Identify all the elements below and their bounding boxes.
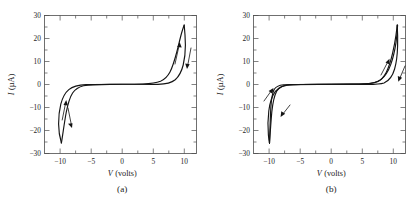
plot-b-ytick-30: 30 xyxy=(243,11,251,20)
plot-a-xtick-5: 5 xyxy=(151,157,155,166)
plot-b-panel-caption: (b) xyxy=(326,184,337,194)
plot-b-ytick-0: 0 xyxy=(246,80,250,89)
plot-a-ytick-30: 30 xyxy=(34,11,42,20)
plot-a-svg: 30 20 10 0 −10 −20 −30 −10 −5 0 5 10 xyxy=(0,0,209,201)
plot-b-y-axis-unit: (µA) xyxy=(216,74,225,90)
plot-b-xtick-5: 5 xyxy=(360,157,364,166)
plot-a-ytick-neg20: −20 xyxy=(29,126,41,135)
plot-b-x-axis-unit: (volts) xyxy=(324,169,346,178)
chart-panel-b: 30 20 10 0 −10 −20 −30 −10 −5 0 5 10 xyxy=(209,0,418,201)
plot-b-xtick-neg5: −5 xyxy=(296,157,304,166)
plot-b-ytick-10: 10 xyxy=(243,57,251,66)
arrow-lower-right-branch-b xyxy=(281,105,290,117)
plot-a-panel-caption: (a) xyxy=(117,184,127,194)
plot-b-x-axis-symbol: V xyxy=(317,169,323,178)
arrow-lower-right-branch-a xyxy=(68,108,73,128)
plot-b-ytick-neg30: −30 xyxy=(238,149,250,158)
plot-a-x-axis-symbol: V xyxy=(108,169,114,178)
plot-a-ytick-neg10: −10 xyxy=(29,103,41,112)
plot-b-xtick-10: 10 xyxy=(390,157,398,166)
chart-panel-a: 30 20 10 0 −10 −20 −30 −10 −5 0 5 10 xyxy=(0,0,209,201)
plot-a-xtick-neg10: −10 xyxy=(54,157,66,166)
plot-b-y-axis-title: I(µA) xyxy=(216,74,225,97)
plot-b-y-axis-symbol: I xyxy=(216,91,225,96)
plot-a-ytick-20: 20 xyxy=(34,34,42,43)
plot-a-ytick-neg30: −30 xyxy=(29,149,41,158)
plot-a-y-axis-unit: (µA) xyxy=(7,74,16,90)
plot-b-svg: 30 20 10 0 −10 −20 −30 −10 −5 0 5 10 xyxy=(209,0,418,201)
plot-a-x-axis-title: V(volts) xyxy=(108,169,137,178)
plot-b-ytick-neg10: −10 xyxy=(238,103,250,112)
plot-b-xtick-0: 0 xyxy=(329,157,333,166)
arrow-upper-right-branch-b xyxy=(398,66,405,82)
plot-b-ytick-20: 20 xyxy=(243,34,251,43)
plot-a-y-axis-title: I(µA) xyxy=(7,74,16,97)
plot-a-reverse-curve xyxy=(59,25,186,143)
figure-container: 30 20 10 0 −10 −20 −30 −10 −5 0 5 10 xyxy=(0,0,419,201)
plot-b-x-axis-title: V(volts) xyxy=(317,169,346,178)
plot-a-xtick-neg5: −5 xyxy=(87,157,95,166)
plot-a-xtick-10: 10 xyxy=(181,157,189,166)
plot-b-ytick-neg20: −20 xyxy=(238,126,250,135)
plot-a-x-axis-unit: (volts) xyxy=(115,169,137,178)
arrow-upper-right-branch-a xyxy=(185,48,191,69)
plot-a-ytick-0: 0 xyxy=(37,80,41,89)
plot-b-xtick-neg10: −10 xyxy=(263,157,275,166)
plot-a-ytick-10: 10 xyxy=(34,57,42,66)
plot-a-xtick-0: 0 xyxy=(120,157,124,166)
plot-a-y-axis-symbol: I xyxy=(7,91,16,96)
